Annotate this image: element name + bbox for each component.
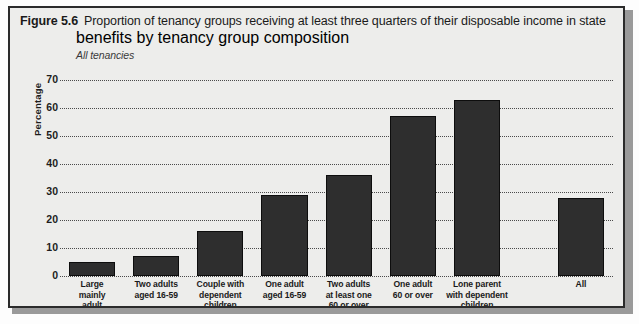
x-axis-label-line: All [549, 279, 613, 290]
x-axis-label-line: aged 16-59 [252, 290, 316, 301]
x-axis-label-line: 60 or over [317, 300, 381, 308]
x-axis-category-labels: LargemainlyadultTwo adultsaged 16-59Coup… [60, 279, 613, 308]
x-axis-label-line: One adult [252, 279, 316, 290]
figure-page: Figure 5.6Proportion of tenancy groups r… [0, 0, 639, 324]
figure-title-line1: Figure 5.6Proportion of tenancy groups r… [20, 14, 615, 29]
x-axis-label-line: Two adults [317, 279, 381, 290]
gridline-60 [60, 108, 613, 109]
bar [69, 262, 115, 276]
y-axis-tick-0: 0 [28, 269, 58, 281]
y-axis-tick-40: 40 [28, 157, 58, 169]
bar [454, 100, 500, 276]
figure-title-text: Proportion of tenancy groups receiving a… [84, 14, 606, 28]
y-axis-tick-20: 20 [28, 213, 58, 225]
bar [558, 198, 604, 276]
x-axis-category-2: Couple withdependentchildren [188, 279, 252, 308]
bar [133, 256, 179, 276]
x-axis-category-6: Lone parentwith dependentchildren [445, 279, 509, 308]
y-axis-tick-60: 60 [28, 101, 58, 113]
x-axis-label-line: Couple with [188, 279, 252, 290]
bar [326, 175, 372, 276]
plot-area: 010203040506070 [60, 80, 613, 276]
y-axis-tick-70: 70 [28, 73, 58, 85]
x-axis-label-line: Lone parent [445, 279, 509, 290]
x-axis-category-5: One adult60 or over [381, 279, 445, 300]
x-axis-label-line: Two adults [124, 279, 188, 290]
figure-title-line2: benefits by tenancy group composition [76, 29, 615, 47]
y-axis-tick-10: 10 [28, 241, 58, 253]
bar [390, 116, 436, 276]
x-axis-label-line: with dependent [445, 290, 509, 301]
bar [261, 195, 307, 276]
x-axis-category-1: Two adultsaged 16-59 [124, 279, 188, 300]
x-axis-label-line: adult [60, 300, 124, 308]
gridline-0 [60, 276, 613, 277]
gridline-70 [60, 80, 613, 81]
x-axis-label-line: Large [60, 279, 124, 290]
y-axis-tick-30: 30 [28, 185, 58, 197]
x-axis-category-0: Largemainlyadult [60, 279, 124, 308]
x-axis-label-line: mainly [60, 290, 124, 301]
figure-number: Figure 5.6 [20, 14, 78, 28]
figure-subtitle: All tenancies [76, 49, 615, 61]
y-axis-tick-50: 50 [28, 129, 58, 141]
x-axis-category-7: All [549, 279, 613, 290]
x-axis-label-line: children [188, 300, 252, 308]
x-axis-label-line: One adult [381, 279, 445, 290]
x-axis-label-line: dependent [188, 290, 252, 301]
x-axis-label-line: at least one [317, 290, 381, 301]
x-axis-category-3: One adultaged 16-59 [252, 279, 316, 300]
figure-frame: Figure 5.6Proportion of tenancy groups r… [8, 6, 625, 308]
figure-title-block: Figure 5.6Proportion of tenancy groups r… [20, 14, 615, 61]
bar [197, 231, 243, 276]
x-axis-label-line: children [445, 300, 509, 308]
gridline-50 [60, 136, 613, 137]
x-axis-label-line: aged 16-59 [124, 290, 188, 301]
x-axis-label-line: 60 or over [381, 290, 445, 301]
x-axis-category-4: Two adultsat least one60 or over [317, 279, 381, 308]
gridline-40 [60, 164, 613, 165]
